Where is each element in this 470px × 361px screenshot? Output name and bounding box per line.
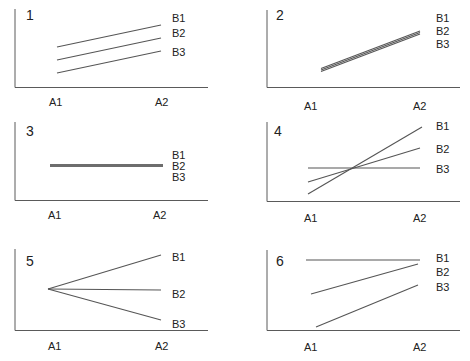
panel-5-xlabel-a2: A2 xyxy=(155,340,168,352)
interaction-plots-grid: 1 B1 B2 B3 A1 A2 2 B1 B2 B3 A1 A2 3 B1 B… xyxy=(0,0,470,361)
panel-2-number: 2 xyxy=(276,7,284,23)
panel-6-line-b2 xyxy=(311,264,418,294)
panel-6-line-b3 xyxy=(316,285,418,327)
panel-4-xlabel-a2: A2 xyxy=(413,212,426,224)
panel-3-legend-b3: B3 xyxy=(172,171,185,183)
panel-3: 3 B1 B2 B3 A1 A2 xyxy=(15,122,208,221)
panel-5: 5 B1 B2 B3 A1 A2 xyxy=(15,249,208,352)
panel-1-line-b1 xyxy=(57,25,161,47)
panel-5-legend-b1: B1 xyxy=(172,251,185,263)
panel-5-line-b3 xyxy=(48,289,161,320)
panel-3-number: 3 xyxy=(26,123,34,139)
panel-4: 4 B1 B2 B3 A1 A2 xyxy=(267,120,460,224)
panel-5-number: 5 xyxy=(26,253,34,269)
panel-2-legend-b2: B2 xyxy=(436,25,449,37)
panel-6-xlabel-a2: A2 xyxy=(413,341,426,353)
panel-1-xlabel-a2: A2 xyxy=(155,96,168,108)
panel-1-line-b3 xyxy=(57,51,161,73)
panel-4-legend-b3: B3 xyxy=(436,163,449,175)
panel-1: 1 B1 B2 B3 A1 A2 xyxy=(15,7,208,108)
panel-6-legend-b3: B3 xyxy=(436,281,449,293)
panel-6-legend-b1: B1 xyxy=(436,252,449,264)
panel-6-number: 6 xyxy=(276,253,284,269)
panel-1-line-b2 xyxy=(57,38,161,60)
panel-4-legend-b1: B1 xyxy=(436,120,449,132)
panel-5-legend-b3: B3 xyxy=(172,318,185,330)
panel-5-xlabel-a1: A1 xyxy=(48,340,61,352)
panel-2-line-b3 xyxy=(321,34,420,72)
panel-4-xlabel-a1: A1 xyxy=(304,212,317,224)
panel-3-xlabel-a2: A2 xyxy=(153,209,166,221)
panel-4-number: 4 xyxy=(274,123,282,139)
panel-6-axes xyxy=(267,250,460,331)
panel-2-xlabel-a1: A1 xyxy=(304,100,317,112)
panel-1-number: 1 xyxy=(26,7,34,23)
panel-6-xlabel-a1: A1 xyxy=(304,341,317,353)
panel-4-line-b1 xyxy=(308,127,422,194)
panel-2-legend-b1: B1 xyxy=(436,12,449,24)
panel-4-legend-b2: B2 xyxy=(436,143,449,155)
panel-5-line-b1 xyxy=(48,255,161,289)
panel-3-xlabel-a1: A1 xyxy=(48,209,61,221)
panel-1-legend-b1: B1 xyxy=(172,12,185,24)
panel-4-line-b2 xyxy=(308,148,420,182)
panel-1-legend-b2: B2 xyxy=(172,27,185,39)
panel-2-line-b1 xyxy=(321,31,420,69)
panel-6-legend-b2: B2 xyxy=(436,266,449,278)
panel-6: 6 B1 B2 B3 A1 A2 xyxy=(267,250,460,353)
panel-2-axes xyxy=(267,10,460,88)
panel-1-xlabel-a1: A1 xyxy=(49,96,62,108)
panel-2-legend-b3: B3 xyxy=(436,38,449,50)
panel-1-legend-b3: B3 xyxy=(172,46,185,58)
panel-5-legend-b2: B2 xyxy=(172,288,185,300)
panel-2-line-b2 xyxy=(321,33,420,71)
panel-2-xlabel-a2: A2 xyxy=(413,100,426,112)
panel-2: 2 B1 B2 B3 A1 A2 xyxy=(267,7,460,112)
panel-5-line-b2 xyxy=(48,289,161,290)
